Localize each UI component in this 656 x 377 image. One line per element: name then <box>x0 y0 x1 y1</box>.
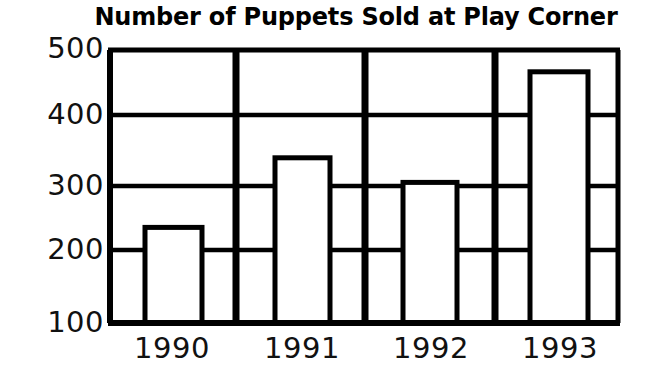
x-tick-label-1990: 1990 <box>112 332 232 364</box>
x-axis-labels: 1990 1991 1992 1993 <box>0 0 656 377</box>
bar-chart-figure: Number of Puppets Sold at Play Corner <box>0 0 656 377</box>
x-tick-label-1992: 1992 <box>371 332 491 364</box>
x-tick-label-1993: 1993 <box>500 332 620 364</box>
x-tick-label-1991: 1991 <box>242 332 362 364</box>
